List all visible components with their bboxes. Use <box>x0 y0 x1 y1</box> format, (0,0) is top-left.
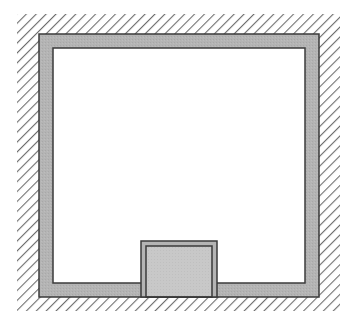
bottom-box <box>141 241 217 297</box>
enclosure-diagram <box>0 0 358 321</box>
